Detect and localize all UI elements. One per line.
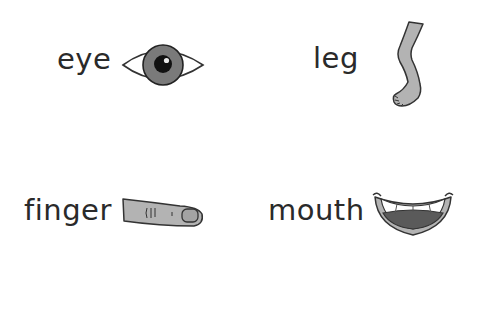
leg-icon — [390, 18, 434, 110]
eye-icon — [121, 43, 205, 87]
label-leg: leg — [313, 44, 359, 73]
label-finger: finger — [24, 196, 112, 225]
label-eye: eye — [57, 45, 111, 74]
mouth-icon — [371, 187, 455, 239]
label-mouth: mouth — [268, 196, 365, 225]
finger-icon — [120, 194, 206, 232]
